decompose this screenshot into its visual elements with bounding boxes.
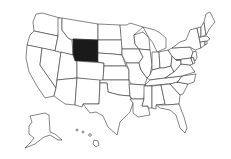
state-florida[interactable] (156, 104, 187, 133)
hawaii-inset (76, 129, 99, 147)
state-montana[interactable] (62, 18, 98, 40)
hawaii-island-maui[interactable] (89, 134, 92, 137)
state-south-dakota[interactable] (98, 40, 122, 55)
state-hawaii[interactable] (93, 140, 99, 147)
state-new-york[interactable] (172, 28, 201, 50)
state-north-dakota[interactable] (98, 24, 122, 40)
contiguous-us (26, 12, 215, 135)
state-indiana[interactable] (152, 52, 160, 70)
state-rhode-island[interactable] (205, 41, 207, 45)
state-kansas[interactable] (103, 66, 129, 80)
hawaii-island-kauai[interactable] (76, 129, 78, 131)
us-map (0, 0, 231, 159)
hawaii-island-oahu[interactable] (82, 131, 84, 133)
state-arizona[interactable] (54, 78, 77, 105)
state-new-mexico[interactable] (75, 78, 100, 107)
state-wyoming[interactable] (73, 39, 98, 62)
state-maine[interactable] (204, 12, 215, 35)
state-alaska[interactable] (25, 113, 62, 148)
state-arkansas[interactable] (129, 84, 145, 99)
alaska-inset (25, 113, 62, 148)
state-colorado[interactable] (77, 61, 104, 81)
